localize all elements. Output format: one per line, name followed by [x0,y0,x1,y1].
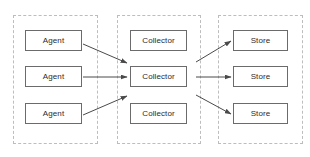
node-agent-2[interactable]: Agent [25,66,82,87]
node-agent-1-label: Agent [43,37,64,45]
node-agent-1[interactable]: Agent [25,30,82,51]
node-collector-3-label: Collector [142,110,174,118]
node-store-2-label: Store [251,73,271,81]
node-agent-3[interactable]: Agent [25,103,82,124]
node-collector-1-label: Collector [142,37,174,45]
node-agent-2-label: Agent [43,73,64,81]
node-store-2[interactable]: Store [233,66,288,87]
node-collector-2[interactable]: Collector [130,66,187,87]
node-store-1-label: Store [251,37,271,45]
node-collector-1[interactable]: Collector [130,30,187,51]
node-store-1[interactable]: Store [233,30,288,51]
node-collector-2-label: Collector [142,73,174,81]
node-collector-3[interactable]: Collector [130,103,187,124]
node-store-3[interactable]: Store [233,103,288,124]
node-store-3-label: Store [251,110,271,118]
diagram-canvas: Agent Agent Agent Collector Collector Co… [0,0,310,157]
node-agent-3-label: Agent [43,110,64,118]
